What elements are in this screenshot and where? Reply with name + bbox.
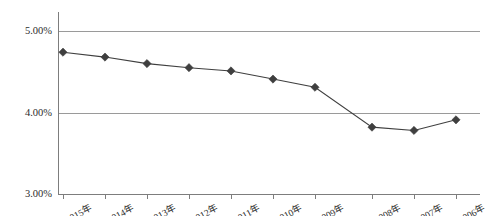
line-chart: 5.00% 4.00% 3.00% 2015年 2014年 2013年 2012… (0, 0, 491, 216)
data-point-marker: 2011年 4.51% (227, 67, 235, 75)
data-point-marker: 2007年 3.78% (410, 126, 418, 134)
data-point-marker: 2010年 4.41% (269, 75, 277, 83)
data-point-marker: 2008年 3.82% (368, 123, 376, 131)
data-point-marker: 2015年 4.74% (59, 48, 67, 56)
data-point-marker: 2013年 4.60% (143, 60, 151, 68)
series-line (63, 52, 456, 130)
data-point-marker: 2014年 4.68% (101, 53, 109, 61)
data-point-marker: 2009年 4.31% (311, 83, 319, 91)
series-layer: 2015年 4.74%2014年 4.68%2013年 4.60%2012年 4… (0, 0, 491, 216)
data-point-marker: 2012年 4.55% (185, 64, 193, 72)
series-markers: 2015年 4.74%2014年 4.68%2013年 4.60%2012年 4… (59, 48, 460, 134)
data-point-marker: 2006年 3.91% (452, 116, 460, 124)
